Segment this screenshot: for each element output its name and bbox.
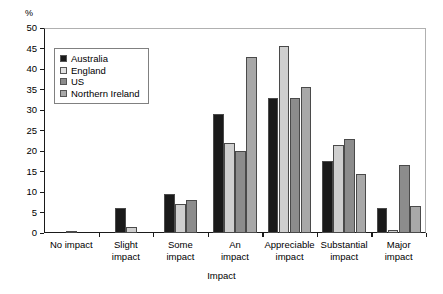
legend-item-label: Northern Ireland (71, 88, 140, 100)
bar-australia (377, 208, 388, 233)
bar-england (279, 46, 290, 233)
legend-item: Northern Ireland (60, 88, 140, 100)
bar-us (186, 200, 197, 233)
x-category-label: Major impact (363, 239, 434, 262)
bar-australia (268, 98, 279, 233)
bar-northern-ireland (301, 87, 312, 233)
legend-item-label: US (71, 76, 84, 88)
x-axis-title: Impact (0, 270, 443, 281)
y-tick-label: 45 (26, 43, 37, 54)
legend-swatch-icon (60, 78, 67, 85)
legend-item-label: Australia (71, 53, 108, 65)
y-tick-label: 10 (26, 186, 37, 197)
bar-northern-ireland (410, 206, 421, 233)
bar-australia (66, 231, 77, 233)
y-tick-label: 5 (32, 207, 37, 218)
legend-item: Australia (60, 53, 140, 65)
legend-swatch-icon (60, 67, 67, 74)
x-tick-mark (371, 233, 372, 237)
legend-swatch-icon (60, 55, 67, 62)
y-tick-label: 20 (26, 145, 37, 156)
bar-northern-ireland (356, 174, 367, 233)
x-tick-mark (317, 233, 318, 237)
y-tick-label: 40 (26, 63, 37, 74)
x-tick-mark (426, 233, 427, 237)
bar-australia (164, 194, 175, 233)
x-tick-mark (262, 233, 263, 237)
bar-england (175, 204, 186, 233)
legend-item: US (60, 76, 140, 88)
x-tick-mark (208, 233, 209, 237)
bar-australia (213, 114, 224, 233)
bar-england (224, 143, 235, 233)
bar-england (333, 145, 344, 233)
y-tick-label: 15 (26, 166, 37, 177)
y-axis-unit-label: % (25, 8, 33, 18)
y-tick-label: 0 (32, 227, 37, 238)
legend-item: England (60, 65, 140, 77)
bar-chart: % 05101520253035404550 No impactSlight i… (0, 0, 443, 294)
legend-swatch-icon (60, 90, 67, 97)
legend-item-label: England (71, 65, 106, 77)
x-tick-mark (99, 233, 100, 237)
bar-northern-ireland (246, 57, 257, 233)
bar-us (399, 165, 410, 233)
y-tick-label: 35 (26, 84, 37, 95)
bar-england (126, 227, 137, 233)
y-tick-label: 25 (26, 125, 37, 136)
y-tick-label: 50 (26, 22, 37, 33)
bar-us (290, 98, 301, 233)
bar-australia (115, 208, 126, 233)
bar-us (235, 151, 246, 233)
x-tick-mark (153, 233, 154, 237)
legend: AustraliaEnglandUSNorthern Ireland (54, 48, 149, 104)
bar-england (388, 230, 399, 233)
y-tick-label: 30 (26, 104, 37, 115)
bar-australia (322, 161, 333, 233)
bar-us (344, 139, 355, 233)
